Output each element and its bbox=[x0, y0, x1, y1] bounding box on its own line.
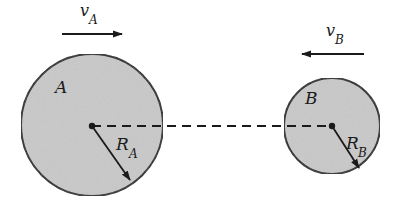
svg-text:v: v bbox=[326, 21, 335, 40]
diagram-canvas: A B R A R B v A bbox=[0, 0, 406, 204]
velocity-a: v A bbox=[62, 1, 122, 34]
svg-text:R: R bbox=[115, 134, 129, 154]
disk-b-label: B bbox=[304, 88, 318, 108]
velocity-b: v B bbox=[302, 21, 364, 54]
disk-a-label: A bbox=[53, 77, 67, 97]
svg-text:v: v bbox=[80, 1, 89, 20]
svg-text:A: A bbox=[128, 147, 138, 161]
collision-diagram: A B R A R B v A bbox=[0, 0, 406, 204]
svg-text:A: A bbox=[88, 13, 98, 27]
svg-text:R: R bbox=[345, 133, 359, 153]
svg-text:B: B bbox=[334, 33, 344, 47]
svg-text:B: B bbox=[357, 146, 367, 160]
